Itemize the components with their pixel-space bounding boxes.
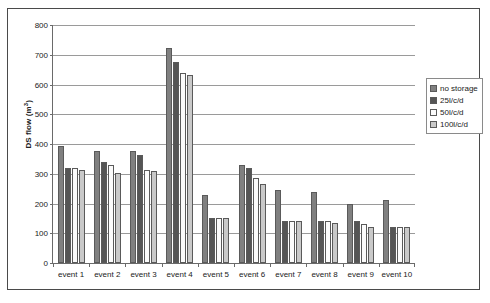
legend-item[interactable]: 100l/c/d: [430, 118, 478, 130]
bar[interactable]: [246, 168, 252, 263]
bar[interactable]: [151, 171, 157, 263]
bar[interactable]: [144, 170, 150, 263]
bar-group: event 1: [53, 25, 89, 263]
x-axis-tick-mark: [89, 263, 90, 267]
bar-group: event 7: [270, 25, 306, 263]
y-axis-tick-label: 100: [35, 229, 48, 238]
y-axis-tick-label: 700: [35, 50, 48, 59]
bar[interactable]: [325, 221, 331, 263]
bar[interactable]: [347, 204, 353, 264]
bar[interactable]: [187, 75, 193, 263]
x-axis-tick-mark: [306, 263, 307, 267]
y-axis-title-text: DS flow (m: [24, 106, 33, 148]
bar[interactable]: [202, 195, 208, 263]
x-axis-tick-mark: [198, 263, 199, 267]
x-axis-tick-mark: [270, 263, 271, 267]
x-axis-tick-label: event 3: [125, 270, 161, 279]
bar[interactable]: [101, 162, 107, 263]
bar[interactable]: [368, 227, 374, 263]
bar[interactable]: [137, 155, 143, 263]
y-axis-tick-label: 0: [44, 259, 48, 268]
y-axis-tick-label: 300: [35, 169, 48, 178]
bar[interactable]: [390, 227, 396, 263]
bar[interactable]: [318, 221, 324, 263]
legend-item-label: 25l/c/d: [440, 96, 464, 105]
bar[interactable]: [166, 48, 172, 263]
legend-swatch-icon: [430, 97, 437, 104]
bar[interactable]: [354, 221, 360, 263]
y-axis-title: DS flow (m3): [23, 74, 34, 174]
x-axis-tick-label: event 6: [234, 270, 270, 279]
y-axis-tick-label: 500: [35, 110, 48, 119]
x-axis-tick-mark: [379, 263, 380, 267]
bar-group: event 8: [306, 25, 342, 263]
legend-item-label: 100l/c/d: [440, 120, 468, 129]
x-axis-tick-mark: [162, 263, 163, 267]
bar[interactable]: [209, 218, 215, 263]
y-axis-tick-label: 400: [35, 140, 48, 149]
x-axis-tick-mark: [125, 263, 126, 267]
bar[interactable]: [275, 190, 281, 263]
bar-group: event 2: [89, 25, 125, 263]
bar[interactable]: [282, 221, 288, 263]
legend-swatch-icon: [430, 109, 437, 116]
x-axis-tick-label: event 1: [53, 270, 89, 279]
bar-group: event 5: [198, 25, 234, 263]
bar[interactable]: [65, 168, 71, 263]
x-axis-tick-mark: [414, 263, 415, 267]
bar[interactable]: [383, 200, 389, 263]
bar[interactable]: [223, 218, 229, 263]
bar-groups: event 1event 2event 3event 4event 5event…: [53, 25, 415, 263]
bar[interactable]: [397, 227, 403, 263]
bar[interactable]: [58, 146, 64, 264]
legend-item-label: 50l/c/d: [440, 108, 464, 117]
y-axis-title-exponent: 3: [23, 103, 29, 106]
bar[interactable]: [180, 73, 186, 263]
bar[interactable]: [311, 192, 317, 263]
bar-group: event 6: [234, 25, 270, 263]
bar-group: event 4: [162, 25, 198, 263]
bar[interactable]: [296, 221, 302, 263]
bar[interactable]: [108, 165, 114, 263]
x-axis-tick-label: event 10: [379, 270, 415, 279]
legend-item[interactable]: no storage: [430, 82, 478, 94]
x-axis-tick-mark: [234, 263, 235, 267]
bar[interactable]: [332, 223, 338, 263]
bar[interactable]: [253, 178, 259, 263]
bar[interactable]: [361, 224, 367, 263]
legend-item[interactable]: 50l/c/d: [430, 106, 478, 118]
legend-swatch-icon: [430, 121, 437, 128]
x-axis-tick-label: event 5: [198, 270, 234, 279]
bar-group: event 10: [379, 25, 415, 263]
bar-group: event 9: [343, 25, 379, 263]
bar[interactable]: [239, 165, 245, 263]
bar-group: event 3: [125, 25, 161, 263]
x-axis-tick-label: event 8: [306, 270, 342, 279]
y-axis-tick-label: 600: [35, 80, 48, 89]
x-axis-tick-label: event 4: [162, 270, 198, 279]
plot-area: 8007006005004003002001000 event 1event 2…: [52, 25, 415, 264]
bar[interactable]: [289, 221, 295, 263]
y-axis-title-close: ): [24, 100, 33, 103]
bar[interactable]: [115, 173, 121, 263]
y-axis-tick-label: 200: [35, 199, 48, 208]
bar[interactable]: [260, 184, 266, 263]
bar[interactable]: [72, 168, 78, 263]
chart-legend: no storage25l/c/d50l/c/d100l/c/d: [426, 78, 483, 134]
legend-swatch-icon: [430, 85, 437, 92]
x-axis-tick-label: event 7: [270, 270, 306, 279]
bar[interactable]: [94, 151, 100, 263]
bar[interactable]: [79, 170, 85, 263]
x-axis-tick-label: event 9: [343, 270, 379, 279]
legend-item[interactable]: 25l/c/d: [430, 94, 478, 106]
x-axis-tick-mark: [343, 263, 344, 267]
legend-item-label: no storage: [440, 84, 478, 93]
bar[interactable]: [404, 227, 410, 263]
x-axis-tick-label: event 2: [89, 270, 125, 279]
y-axis-tick-label: 800: [35, 21, 48, 30]
bar[interactable]: [216, 218, 222, 263]
bar[interactable]: [130, 151, 136, 263]
bar[interactable]: [173, 62, 179, 263]
x-axis-tick-mark: [53, 263, 54, 267]
chart-figure-frame: DS flow (m3) 8007006005004003002001000 e…: [7, 8, 480, 290]
